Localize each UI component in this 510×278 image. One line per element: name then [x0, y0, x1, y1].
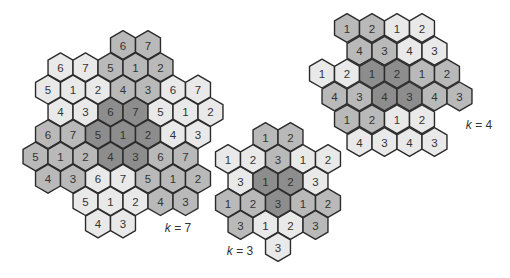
hex-label: 1	[369, 68, 375, 80]
hex-label: 2	[250, 154, 256, 166]
hex-label: 3	[431, 137, 437, 149]
hex-label: 1	[300, 154, 306, 166]
hex-label: 2	[157, 62, 163, 74]
hex-label: 2	[369, 23, 375, 35]
hex-label: 3	[237, 220, 243, 232]
hex-label: 4	[331, 91, 338, 103]
hex-label: 1	[225, 198, 231, 210]
hex-label: 5	[107, 62, 113, 74]
hex-label: 2	[82, 151, 88, 163]
hex-label: 3	[195, 129, 201, 141]
hex-label: 4	[45, 173, 52, 185]
cluster-k3: 121231231231231231233	[216, 123, 341, 262]
hex-label: 2	[195, 173, 201, 185]
hexagon-diagram: 6767512512436743675126751243512436743675…	[0, 0, 510, 278]
hex-label: 1	[132, 62, 138, 74]
hex-label: 2	[344, 68, 350, 80]
hex-label: 2	[95, 84, 101, 96]
hex-label: 5	[45, 84, 51, 96]
hex-label: 7	[132, 106, 138, 118]
hex-label: 4	[95, 218, 102, 230]
hex-label: 1	[319, 68, 325, 80]
hex-label: 1	[225, 154, 231, 166]
hex-label: 2	[132, 196, 138, 208]
hex-label: 7	[145, 40, 151, 52]
hex-label: 4	[356, 45, 363, 57]
hex-label: 3	[456, 91, 462, 103]
hex-label: 7	[120, 173, 126, 185]
hex-label: 2	[207, 106, 213, 118]
hex-label: 3	[70, 173, 76, 185]
hex-label: 3	[275, 198, 281, 210]
hex-label: 1	[262, 220, 268, 232]
hex-label: 1	[57, 151, 63, 163]
hex-label: 5	[157, 106, 163, 118]
hex-label: 5	[145, 173, 151, 185]
cluster-k4: 1212434312121243434312124343	[310, 14, 472, 157]
hex-label: 5	[32, 151, 38, 163]
hex-label: 7	[195, 84, 201, 96]
hex-label: 6	[45, 129, 51, 141]
hex-label: 1	[344, 114, 350, 126]
hex-label: 3	[120, 218, 126, 230]
hex-label: 2	[287, 176, 293, 188]
hex-label: 2	[369, 114, 375, 126]
k7-label: k = 7	[165, 221, 191, 235]
hex-label: 4	[431, 91, 438, 103]
hex-label: 1	[170, 173, 176, 185]
hex-label: 1	[344, 23, 350, 35]
hex-label: 3	[381, 137, 387, 149]
hex-label: 6	[57, 62, 63, 74]
hex-label: 3	[182, 196, 188, 208]
hex-label: 4	[57, 106, 64, 118]
hex-label: 2	[287, 220, 293, 232]
hex-label: 4	[157, 196, 164, 208]
hex-label: 1	[182, 106, 188, 118]
hex-label: 3	[406, 91, 412, 103]
hex-label: 4	[170, 129, 177, 141]
hex-label: 1	[300, 198, 306, 210]
hex-label: 4	[356, 137, 363, 149]
hex-label: 3	[275, 154, 281, 166]
hex-label: 4	[406, 137, 413, 149]
k-value: = 3	[233, 244, 253, 258]
k4-label: k = 4	[466, 118, 492, 132]
hex-label: 6	[120, 40, 126, 52]
k-value: = 7	[171, 221, 191, 235]
hex-label: 6	[170, 84, 176, 96]
hex-label: 2	[325, 154, 331, 166]
hex-label: 2	[394, 68, 400, 80]
hex-label: 7	[70, 129, 76, 141]
hex-label: 6	[157, 151, 163, 163]
hex-label: 3	[237, 176, 243, 188]
hex-label: 1	[419, 68, 425, 80]
hex-label: 4	[120, 84, 127, 96]
hex-label: 1	[262, 176, 268, 188]
hex-label: 3	[312, 220, 318, 232]
hex-label: 3	[132, 151, 138, 163]
hex-label: 3	[82, 106, 88, 118]
hex-label: 2	[250, 198, 256, 210]
hex-label: 1	[70, 84, 76, 96]
hex-label: 4	[406, 45, 413, 57]
hex-label: 7	[182, 151, 188, 163]
hex-label: 3	[312, 176, 318, 188]
hex-label: 2	[145, 129, 151, 141]
hex-label: 2	[444, 68, 450, 80]
hex-label: 3	[381, 45, 387, 57]
k-value: = 4	[472, 118, 492, 132]
hex-label: 3	[145, 84, 151, 96]
hex-label: 7	[82, 62, 88, 74]
hex-label: 5	[95, 129, 101, 141]
hex-label: 1	[120, 129, 126, 141]
cluster-k7: 6767512512436743675126751243512436743675…	[23, 31, 223, 238]
hex-label: 1	[107, 196, 113, 208]
hex-label: 2	[287, 132, 293, 144]
hex-label: 6	[95, 173, 101, 185]
hex-label: 3	[275, 242, 281, 254]
hex-label: 2	[419, 114, 425, 126]
hex-label: 4	[381, 91, 388, 103]
hex-label: 5	[82, 196, 88, 208]
hex-label: 6	[107, 106, 113, 118]
hex-label: 2	[325, 198, 331, 210]
